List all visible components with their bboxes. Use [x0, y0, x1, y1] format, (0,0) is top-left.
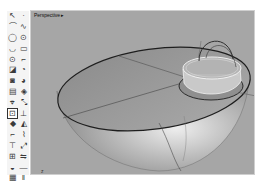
- axis-z-label: z: [41, 168, 44, 174]
- polygon-tool-icon[interactable]: ⊙: [7, 54, 18, 65]
- split-tool-icon[interactable]: ⊥: [18, 108, 29, 119]
- select-tool-icon[interactable]: ↖: [7, 11, 18, 22]
- perspective-viewport[interactable]: z Perspective▸: [30, 10, 255, 175]
- viewport-title-label: Perspective: [34, 12, 60, 18]
- array-tool-icon[interactable]: ⊞: [7, 151, 18, 162]
- boolean-tool-icon[interactable]: ◈: [18, 87, 29, 98]
- dimension-tool-icon[interactable]: ⊡: [7, 108, 18, 119]
- point-tool-icon[interactable]: ·: [18, 11, 29, 22]
- curve-tool-icon[interactable]: ∿: [18, 22, 29, 33]
- layer-tool-icon[interactable]: ◒: [7, 162, 18, 173]
- hide-tool-icon[interactable]: —: [18, 162, 29, 173]
- sphere-tool-icon[interactable]: ◕: [18, 76, 29, 87]
- join-tool-icon[interactable]: ⌇: [18, 130, 29, 141]
- rectangle-tool-icon[interactable]: ▭: [18, 43, 29, 54]
- tool-grid: ↖ · ⌒ ∿ ◯ ⊙ ◡ ▭ ⊙ ⌐ ◪ ◔ ◙ ◕ ▤ ◈ ⌖ ⤡ ⊡ ⊥ …: [7, 11, 29, 184]
- arc-tool-icon[interactable]: ◡: [7, 43, 18, 54]
- viewport-title[interactable]: Perspective▸: [34, 12, 64, 18]
- extrude-tool-icon[interactable]: ▤: [7, 87, 18, 98]
- render-tool-icon[interactable]: ◆: [7, 119, 18, 130]
- cup-top: [183, 57, 241, 79]
- move-tool-icon[interactable]: ⤢: [18, 141, 29, 152]
- 3d-scene[interactable]: z: [31, 11, 255, 175]
- circle-tool-icon[interactable]: ◯: [7, 33, 18, 44]
- box-tool-icon[interactable]: ◙: [7, 76, 18, 87]
- viewport-menu-arrow-icon[interactable]: ▸: [61, 12, 64, 18]
- mirror-tool-icon[interactable]: ⇋: [18, 151, 29, 162]
- fillet-curve-tool-icon[interactable]: ⌐: [18, 54, 29, 65]
- ellipse-tool-icon[interactable]: ⊙: [18, 33, 29, 44]
- explode-tool-icon[interactable]: ⊤: [7, 141, 18, 152]
- surface-tool-icon[interactable]: ◪: [7, 65, 18, 76]
- grid-tool-icon[interactable]: ▦: [7, 173, 18, 184]
- loft-tool-icon[interactable]: ◔: [18, 65, 29, 76]
- trim-tool-icon[interactable]: ⌐: [7, 130, 18, 141]
- properties-tool-icon[interactable]: ǁ: [18, 173, 29, 184]
- mesh-tool-icon[interactable]: ⌖: [7, 97, 18, 108]
- analyze-tool-icon[interactable]: ◭: [18, 119, 29, 130]
- polyline-tool-icon[interactable]: ⌒: [7, 22, 18, 33]
- left-toolbar: ↖ · ⌒ ∿ ◯ ⊙ ◡ ▭ ⊙ ⌐ ◪ ◔ ◙ ◕ ▤ ◈ ⌖ ⤡ ⊡ ⊥ …: [7, 11, 29, 175]
- transform-tool-icon[interactable]: ⤡: [18, 97, 29, 108]
